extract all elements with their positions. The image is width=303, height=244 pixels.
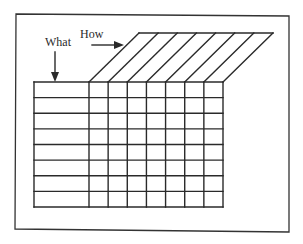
roof-diagonal xyxy=(127,33,177,82)
roof-diagonal xyxy=(204,33,254,82)
matrix-grid xyxy=(34,82,223,207)
roof-diagonal xyxy=(166,33,216,82)
how-roof xyxy=(89,33,273,82)
what-arrow xyxy=(51,52,59,82)
what-label: What xyxy=(45,35,72,49)
roof-diagonal xyxy=(108,33,158,82)
house-of-quality-diagram: What How xyxy=(0,0,303,244)
how-label: How xyxy=(80,27,104,41)
how-arrow xyxy=(92,41,124,49)
roof-diagonal xyxy=(185,33,235,82)
roof-diagonal xyxy=(223,33,273,82)
roof-diagonal xyxy=(146,33,196,82)
